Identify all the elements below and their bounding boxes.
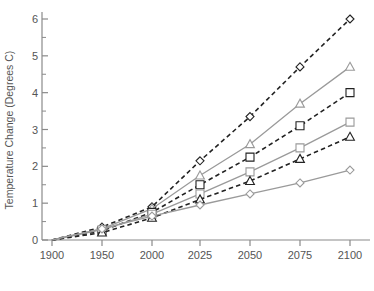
data-point-marker <box>246 140 255 148</box>
x-tick-label: 1950 <box>90 249 114 261</box>
y-tick-label: 3 <box>32 124 38 136</box>
data-point-marker <box>246 168 254 176</box>
data-point-marker <box>296 179 304 187</box>
series-line <box>52 67 350 240</box>
data-point-marker <box>346 15 354 23</box>
data-point-marker <box>196 171 205 179</box>
x-tick-label: 2050 <box>238 249 262 261</box>
chart-series <box>52 89 354 240</box>
data-point-marker <box>246 153 254 161</box>
y-tick-label: 1 <box>32 197 38 209</box>
y-axis-ticks: 0123456 <box>32 13 48 246</box>
data-point-marker <box>346 166 354 174</box>
x-tick-label: 2025 <box>188 249 212 261</box>
y-tick-label: 2 <box>32 160 38 172</box>
data-point-marker <box>346 62 355 70</box>
data-point-marker <box>296 63 304 71</box>
x-axis-ticks: 1900195020002025205020752100 <box>40 240 362 261</box>
axes <box>42 12 370 240</box>
y-tick-label: 4 <box>32 87 38 99</box>
x-tick-label: 2100 <box>338 249 362 261</box>
series-line <box>52 93 350 240</box>
y-axis-title: Temperature Change (Degrees C) <box>3 51 15 210</box>
y-tick-label: 0 <box>32 234 38 246</box>
data-point-marker <box>196 181 204 189</box>
x-tick-label: 1900 <box>40 249 64 261</box>
x-tick-label: 2075 <box>288 249 312 261</box>
data-point-marker <box>346 132 355 140</box>
data-point-marker <box>296 99 305 107</box>
data-point-marker <box>196 157 204 165</box>
chart-canvas: 01234561900195020002025205020752100Tempe… <box>0 0 374 291</box>
temperature-change-line-chart: 01234561900195020002025205020752100Tempe… <box>0 0 374 291</box>
data-point-marker <box>246 190 254 198</box>
x-tick-label: 2000 <box>140 249 164 261</box>
data-point-marker <box>296 144 304 152</box>
y-tick-label: 6 <box>32 13 38 25</box>
y-tick-label: 5 <box>32 50 38 62</box>
data-point-marker <box>346 118 354 126</box>
data-point-marker <box>296 122 304 130</box>
data-point-marker <box>346 89 354 97</box>
chart-series <box>52 62 354 240</box>
